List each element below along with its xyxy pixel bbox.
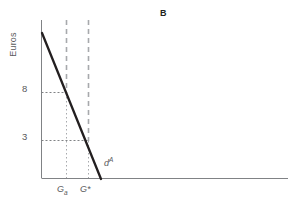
demand-curve-label: dA	[104, 157, 113, 168]
y-tick-label-3: 3	[22, 132, 27, 142]
plot-area	[0, 0, 291, 206]
x-tick-ga-base: G	[57, 184, 64, 194]
demand-curve-figure: Euros 8 3 Ga G* dA B	[0, 0, 291, 206]
demand-curve-line	[42, 33, 101, 179]
y-axis-label: Euros	[9, 23, 18, 67]
x-tick-ga-subscript: a	[64, 189, 68, 196]
x-tick-label-ga: Ga	[57, 185, 68, 196]
panel-label-b: B	[160, 9, 167, 18]
y-tick-label-8: 8	[22, 84, 27, 94]
curve-label-superscript: A	[109, 156, 113, 163]
x-tick-label-gstar: G*	[80, 185, 91, 194]
